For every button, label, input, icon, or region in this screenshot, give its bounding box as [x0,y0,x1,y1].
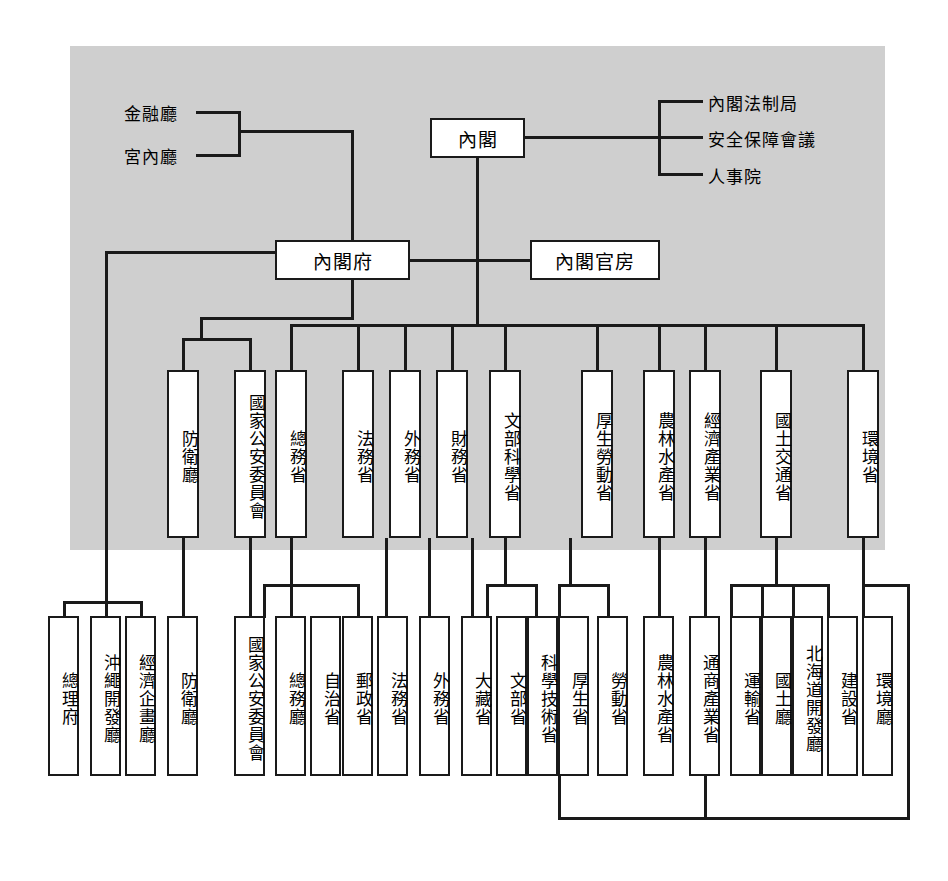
line-cabinetoffice-down [351,280,354,319]
line-mof-to-old [471,538,474,618]
node-old-posts-telecommunications[interactable]: 郵政省 [342,616,373,776]
line-mic-down [290,538,293,586]
line-fsa-stub [196,111,241,114]
node-cabinet-office[interactable]: 內閣府 [275,240,410,280]
line-bottom-bus [558,817,910,820]
line-drop-ministry-1 [357,324,360,372]
line-drop-ministry-5 [596,324,599,372]
line-drop-ministry-6 [658,324,661,372]
node-old-prime-ministers-office[interactable]: 總理府 [48,616,79,776]
label-security-council[interactable]: 安全保障會議 [708,126,816,151]
line-mlit-to-kensetsu [827,584,830,618]
line-defense-to-old [182,538,185,618]
line-drop-ministry-3 [451,324,454,372]
line-drop-ministry-7 [704,324,707,372]
line-mhlw-bracket [558,584,610,587]
node-ministry-health-labour[interactable]: 厚生勞動省 [581,370,613,538]
label-financial-services-agency[interactable]: 金融廳 [124,100,178,125]
line-mofa-to-old [428,538,431,618]
node-ministry-justice[interactable]: 法務省 [342,370,374,538]
node-old-national-public-safety-commission[interactable]: 國家公安委員會 [234,616,265,776]
line-moe-down [862,538,865,618]
node-old-ministry-of-finance-okurasho[interactable]: 大藏省 [461,616,492,776]
line-mhlw-to-rodo [607,584,610,618]
node-old-environment-agency[interactable]: 環境廳 [862,616,893,776]
node-old-labour[interactable]: 勞動省 [597,616,628,776]
line-drop-agency-0 [182,338,185,372]
line-mlit-to-kokudo [761,584,764,618]
line-drop-ministry-2 [404,324,407,372]
node-cabinet[interactable]: 內閣 [430,118,525,158]
node-ministry-foreign-affairs[interactable]: 外務省 [389,370,421,538]
node-ministry-education-science[interactable]: 文部科學省 [489,370,521,538]
line-agency-bus-lower [182,338,252,341]
label-cabinet-legislation-bureau[interactable]: 內閣法制局 [708,90,798,115]
node-old-foreign-affairs[interactable]: 外務省 [419,616,450,776]
line-mhlw-down [569,538,572,586]
node-cabinet-secretariat[interactable]: 內閣官房 [530,240,660,280]
line-drop-ministry-4 [504,324,507,372]
line-bottom-bus-mid-riser [704,776,707,820]
line-maff-to-old [658,538,661,618]
org-chart-canvas: 內閣 內閣法制局 安全保障會議 人事院 金融廳 宮內廳 內閣府 內閣官房 防衛廳… [0,0,948,881]
line-mic-to-yuseisho [357,584,360,618]
node-old-health-welfare[interactable]: 厚生省 [558,616,589,776]
line-mlit-down [775,538,778,586]
line-attached-1 [658,100,703,103]
label-national-personnel-authority[interactable]: 人事院 [708,163,762,188]
node-ministry-economy-trade[interactable]: 經濟產業省 [689,370,721,538]
line-cabinetoffice-left-drop [105,251,108,603]
line-meti-to-old [704,538,707,618]
line-ministry-bus [290,324,865,327]
node-old-science-technology[interactable]: 科學技術省 [527,616,558,776]
line-cabinetoffice-to-secretariat [410,259,532,262]
node-old-defense-agency[interactable]: 防衛廳 [167,616,198,776]
line-drop-agency-1 [249,338,252,372]
node-ministry-environment[interactable]: 環境省 [847,370,879,538]
line-mic-to-somucho [263,584,266,618]
node-national-public-safety-commission[interactable]: 國家公安委員會 [234,370,266,538]
line-cabinet-to-attached [525,136,660,139]
line-cabinetoffice-agency-bus [200,317,354,320]
node-old-justice[interactable]: 法務省 [377,616,408,776]
node-ministry-internal-affairs[interactable]: 總務省 [275,370,307,538]
line-mext-down [504,538,507,586]
node-old-home-affairs[interactable]: 自治省 [310,616,341,776]
node-old-okinawa-development-agency[interactable]: 沖繩開發廳 [90,616,121,776]
line-cabinetoffice-left-out [105,251,277,254]
node-ministry-land-transport[interactable]: 國土交通省 [760,370,792,538]
line-mic-bracket [263,584,360,587]
node-old-national-land-agency[interactable]: 國土廳 [761,616,792,776]
line-iha-stub [196,154,241,157]
line-mlit-bracket [730,584,830,587]
line-fsa-iha-drop [351,130,354,244]
node-defense-agency[interactable]: 防衛廳 [167,370,199,538]
label-imperial-household-agency[interactable]: 宮內廳 [124,143,178,168]
line-drop-ministry-0 [290,324,293,372]
line-moe-right-out [862,584,910,587]
line-bottom-bus-left-riser [558,776,561,820]
line-mext-bracket [486,584,538,587]
node-old-education[interactable]: 文部省 [496,616,527,776]
line-attached-2 [658,136,703,139]
line-mlit-to-unyu [730,584,733,618]
node-old-agriculture-forestry-fisheries[interactable]: 農林水產省 [643,616,674,776]
line-somu-left-bracket [63,601,143,604]
node-old-transport[interactable]: 運輸省 [730,616,761,776]
node-old-hokkaido-development-agency[interactable]: 北海道開發廳 [792,616,823,776]
line-drop-ministry-8 [775,324,778,372]
line-npsc-to-old [249,538,252,618]
line-mext-to-kagaku [535,584,538,618]
line-fsa-iha-to-right [238,130,354,133]
node-ministry-finance[interactable]: 財務省 [436,370,468,538]
node-ministry-agriculture[interactable]: 農林水產省 [643,370,675,538]
node-old-construction[interactable]: 建設省 [827,616,858,776]
node-old-international-trade-industry[interactable]: 通商產業省 [689,616,720,776]
line-cabinet-trunk [476,158,479,326]
node-old-management-coordination-agency[interactable]: 總務廳 [275,616,306,776]
line-fsa-iha-spine [238,111,241,157]
line-mext-to-monbusho [486,584,489,618]
node-old-economic-planning-agency[interactable]: 經濟企畫廳 [125,616,156,776]
line-mlit-to-hokkaido [792,584,795,618]
line-moj-to-old [385,538,388,618]
